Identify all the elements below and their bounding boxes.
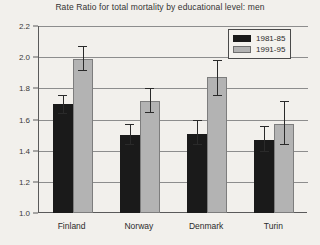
bar-chart: Rate Ratio for total mortality by educat… bbox=[0, 0, 320, 245]
error-bar-cap-lower bbox=[280, 144, 289, 145]
error-bar bbox=[264, 126, 265, 151]
error-bar bbox=[217, 60, 218, 94]
legend: 1981-85 1991-95 bbox=[228, 29, 291, 59]
x-axis-tick-label: Denmark bbox=[189, 221, 223, 231]
error-bar-cap-lower bbox=[193, 144, 202, 145]
error-bar-cap-lower bbox=[125, 144, 134, 145]
y-axis-tick-label: 1.4 bbox=[0, 146, 30, 155]
error-bar bbox=[63, 95, 64, 114]
y-axis-tick-label: 2.2 bbox=[0, 22, 30, 31]
error-bar-cap-upper bbox=[125, 124, 134, 125]
y-axis-tick-label: 1.6 bbox=[0, 115, 30, 124]
error-bar-cap-upper bbox=[213, 60, 222, 61]
y-axis-tick-label: 2.0 bbox=[0, 53, 30, 62]
error-bar-cap-lower bbox=[145, 112, 154, 113]
legend-swatch-1981-85 bbox=[233, 35, 251, 42]
error-bar-cap-upper bbox=[145, 88, 154, 89]
x-axis-tick-label: Finland bbox=[58, 221, 86, 231]
x-axis-tick-label: Norway bbox=[124, 221, 153, 231]
chart-title: Rate Ratio for total mortality by educat… bbox=[0, 2, 320, 12]
legend-swatch-1991-95 bbox=[233, 46, 251, 53]
error-bar bbox=[130, 124, 131, 144]
error-bar-cap-lower bbox=[213, 95, 222, 96]
error-bar bbox=[150, 88, 151, 111]
error-bar bbox=[284, 101, 285, 145]
bar bbox=[120, 135, 140, 213]
bar bbox=[73, 59, 93, 213]
error-bar-cap-upper bbox=[260, 126, 269, 127]
legend-item: 1991-95 bbox=[233, 44, 285, 55]
legend-label-1991-95: 1991-95 bbox=[256, 45, 285, 54]
error-bar bbox=[83, 46, 84, 69]
error-bar-cap-upper bbox=[280, 101, 289, 102]
error-bar-cap-upper bbox=[58, 95, 67, 96]
gridline bbox=[39, 26, 308, 27]
error-bar-cap-lower bbox=[58, 113, 67, 114]
error-bar-cap-upper bbox=[193, 120, 202, 121]
bar bbox=[140, 101, 160, 213]
y-axis-tick-label: 1.8 bbox=[0, 84, 30, 93]
error-bar-cap-lower bbox=[260, 151, 269, 152]
error-bar-cap-lower bbox=[78, 70, 87, 71]
legend-label-1981-85: 1981-85 bbox=[256, 34, 285, 43]
bar bbox=[187, 134, 207, 213]
error-bar bbox=[197, 120, 198, 145]
legend-item: 1981-85 bbox=[233, 33, 285, 44]
bar bbox=[207, 77, 227, 213]
bar bbox=[53, 104, 73, 213]
y-axis-tick-label: 1.2 bbox=[0, 177, 30, 186]
x-axis-tick-label: Turin bbox=[264, 221, 283, 231]
error-bar-cap-upper bbox=[78, 46, 87, 47]
y-axis-tick-label: 1.0 bbox=[0, 209, 30, 218]
